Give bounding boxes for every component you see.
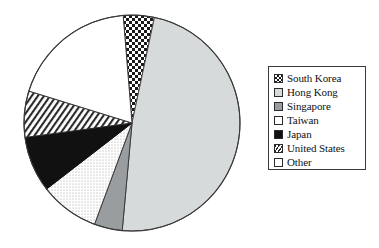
black-swatch-icon xyxy=(274,130,283,139)
legend-item-united-states[interactable]: United States xyxy=(274,141,365,155)
chart-legend: South Korea Hong Kong Singapore Taiwan J… xyxy=(268,66,366,170)
diagonal-hatch-swatch-icon xyxy=(274,144,283,153)
pie-slice-group xyxy=(24,15,240,231)
medium-gray-swatch-icon xyxy=(274,102,283,111)
legend-label: Taiwan xyxy=(287,115,319,126)
legend-item-singapore[interactable]: Singapore xyxy=(274,99,365,113)
legend-item-taiwan[interactable]: Taiwan xyxy=(274,113,365,127)
light-gray-swatch-icon xyxy=(274,88,283,97)
legend-label: United States xyxy=(287,143,345,154)
legend-label: Singapore xyxy=(287,101,331,112)
legend-item-hong-kong[interactable]: Hong Kong xyxy=(274,85,365,99)
checker-swatch-icon xyxy=(274,74,283,83)
legend-label: Japan xyxy=(287,129,312,140)
legend-label: Other xyxy=(287,157,312,168)
legend-label: Hong Kong xyxy=(287,87,338,98)
legend-label: South Korea xyxy=(287,73,341,84)
white-swatch-icon xyxy=(274,116,283,125)
legend-item-south-korea[interactable]: South Korea xyxy=(274,71,365,85)
white-swatch-icon xyxy=(274,158,283,167)
legend-item-other[interactable]: Other xyxy=(274,155,365,169)
legend-item-japan[interactable]: Japan xyxy=(274,127,365,141)
pie-chart-figure: South Korea Hong Kong Singapore Taiwan J… xyxy=(0,0,379,248)
